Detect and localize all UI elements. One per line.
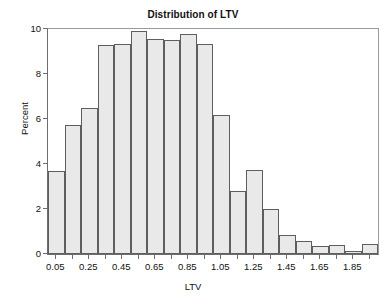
histogram-bar	[246, 170, 263, 254]
x-tick-mark	[204, 254, 205, 259]
x-tick-mark	[352, 254, 353, 259]
x-tick-mark	[369, 254, 370, 259]
y-tick-label: 6	[11, 113, 41, 124]
histogram-bar	[48, 171, 65, 254]
histogram-bar	[180, 34, 197, 255]
x-tick-mark	[286, 254, 287, 259]
histogram-bar	[65, 125, 82, 254]
x-tick-mark-group	[47, 254, 379, 260]
x-tick-mark	[121, 254, 122, 259]
histogram-bar	[131, 31, 148, 254]
x-tick-mark	[319, 254, 320, 259]
histogram-bar	[98, 45, 115, 254]
histogram-bar	[362, 244, 379, 254]
x-tick-mark	[270, 254, 271, 259]
histogram-bar	[312, 246, 329, 254]
histogram-bar	[147, 39, 164, 254]
histogram-bar	[263, 209, 280, 254]
histogram-bar	[213, 115, 230, 255]
y-tick-label-group: 0246810	[8, 28, 41, 253]
x-tick-mark	[55, 254, 56, 259]
histogram-bars	[48, 29, 378, 254]
x-tick-mark	[105, 254, 106, 259]
y-tick-label: 10	[11, 23, 41, 34]
x-tick-mark	[171, 254, 172, 259]
x-axis-title: LTV	[0, 281, 386, 292]
plot-area	[47, 28, 379, 255]
histogram-bar	[81, 108, 98, 254]
histogram-figure: Distribution of LTV Percent 0246810 0.05…	[0, 0, 386, 303]
x-tick-mark	[336, 254, 337, 259]
x-tick-mark	[138, 254, 139, 259]
x-tick-label-group: 0.050.250.450.650.851.051.251.451.651.85	[47, 261, 379, 275]
x-tick-mark	[220, 254, 221, 259]
histogram-bar	[164, 40, 181, 254]
histogram-bar	[114, 44, 131, 254]
chart-title: Distribution of LTV	[0, 9, 386, 20]
histogram-bar	[197, 44, 214, 254]
x-tick-mark	[88, 254, 89, 259]
y-tick-label: 2	[11, 203, 41, 214]
histogram-bar	[329, 245, 346, 254]
histogram-bar	[279, 235, 296, 254]
y-tick-label: 8	[11, 68, 41, 79]
histogram-bar	[296, 241, 313, 255]
x-tick-mark	[253, 254, 254, 259]
x-tick-mark	[72, 254, 73, 259]
x-tick-mark	[237, 254, 238, 259]
x-tick-mark	[154, 254, 155, 259]
histogram-bar	[230, 191, 247, 254]
y-tick-label: 4	[11, 158, 41, 169]
x-tick-mark	[303, 254, 304, 259]
x-tick-label: 1.85	[332, 261, 372, 272]
y-tick-label: 0	[11, 248, 41, 259]
x-tick-mark	[187, 254, 188, 259]
